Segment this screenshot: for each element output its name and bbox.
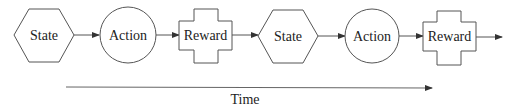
action-label: Action	[353, 29, 391, 44]
state-label: State	[30, 28, 58, 43]
action-label: Action	[109, 28, 147, 43]
reward-node-2: Reward	[423, 11, 476, 65]
state-node-1: State	[14, 9, 74, 62]
time-label: Time	[230, 92, 259, 107]
state-action-reward-diagram: State Action Reward State Action Reward …	[0, 0, 513, 109]
action-node-1: Action	[100, 7, 156, 63]
action-node-2: Action	[345, 9, 399, 63]
state-node-2: State	[258, 10, 318, 63]
reward-node-1: Reward	[179, 9, 232, 63]
reward-label: Reward	[428, 29, 472, 44]
time-axis-arrow	[66, 87, 432, 88]
reward-label: Reward	[184, 28, 228, 43]
state-label: State	[274, 29, 302, 44]
